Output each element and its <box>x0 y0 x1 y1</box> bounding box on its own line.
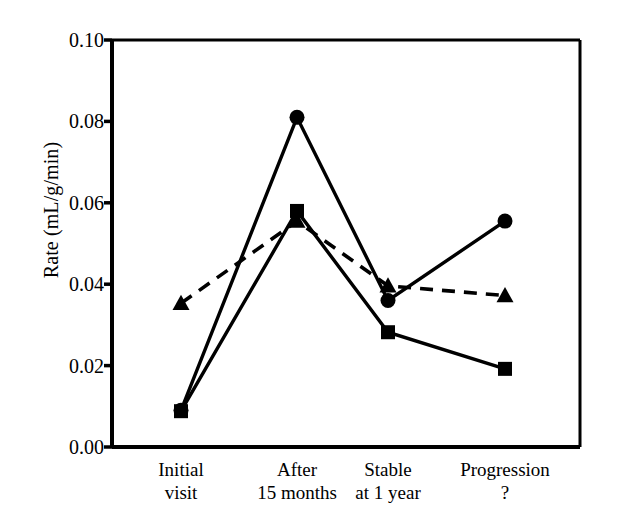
axis-lines <box>112 40 580 447</box>
circle-marker <box>290 110 305 125</box>
series-line-square-series <box>181 211 505 411</box>
triangle-marker <box>497 287 514 302</box>
circle-marker <box>381 293 396 308</box>
series-triangle-series <box>173 213 514 310</box>
circle-marker <box>498 214 513 229</box>
series-square-series <box>174 204 512 418</box>
square-marker <box>498 362 512 376</box>
series-line-circle-series <box>181 117 505 410</box>
series-circle-series <box>174 110 513 418</box>
chart-figure: Rate (mL/g/min) 0.10 0.08 0.06 0.04 0.02… <box>0 0 620 521</box>
plot-area <box>0 0 620 521</box>
square-marker <box>174 404 188 418</box>
data-series-group <box>173 110 514 418</box>
square-marker <box>381 325 395 339</box>
